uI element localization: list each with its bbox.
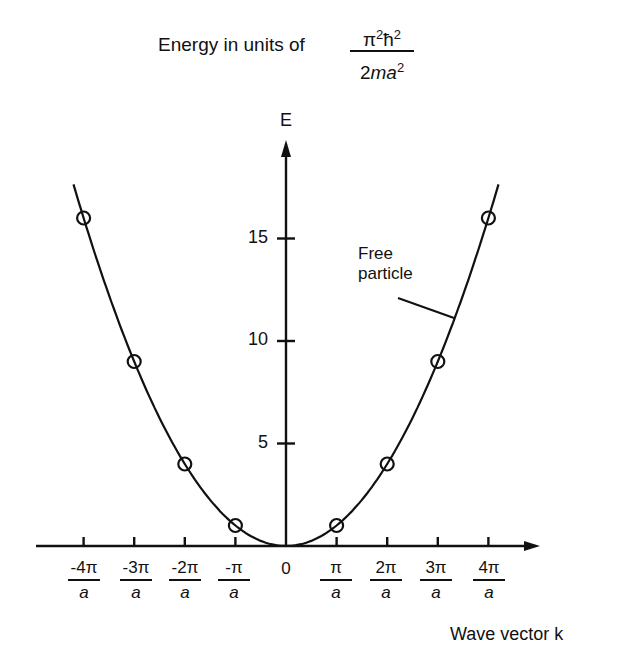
y-axis-arrow-icon: [281, 140, 291, 157]
x-axis-arrow-icon: [524, 541, 540, 551]
x-tick-label: 3πa: [416, 558, 456, 603]
x-tick-label: -3πa: [116, 558, 156, 603]
x-tick-label-zero: 0: [266, 558, 306, 578]
axes: [36, 140, 540, 551]
y-tick-label-15: 15: [228, 227, 268, 248]
x-axis-label: Wave vector k: [450, 624, 563, 645]
x-tick-label: -πa: [214, 558, 254, 603]
annotation-leader-line: [398, 298, 454, 318]
x-tick-label: 2πa: [366, 558, 406, 603]
x-tick-label: -4πa: [64, 558, 104, 603]
y-tick-label-5: 5: [228, 432, 268, 453]
x-tick-label: πa: [316, 558, 356, 603]
y-tick-label-10: 10: [228, 329, 268, 350]
x-tick-label: -2πa: [165, 558, 205, 603]
y-axis-label: E: [280, 110, 292, 131]
free-particle-annotation: Free particle: [358, 244, 413, 284]
x-tick-label: 4πa: [469, 558, 509, 603]
